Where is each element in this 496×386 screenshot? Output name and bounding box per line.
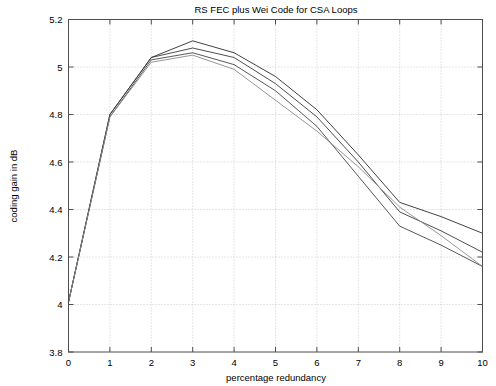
- y-tick-label: 4.2: [49, 252, 62, 263]
- y-tick-label: 4.4: [49, 204, 62, 215]
- x-tick-label: 10: [477, 357, 488, 368]
- y-tick-label: 3.8: [49, 347, 62, 358]
- x-tick-label: 6: [314, 357, 319, 368]
- y-axis-label: coding gain in dB: [8, 150, 19, 223]
- x-tick-label: 2: [149, 357, 154, 368]
- chart-title: RS FEC plus Wei Code for CSA Loops: [195, 4, 358, 15]
- figure-background: [0, 0, 496, 386]
- x-tick-label: 4: [231, 357, 236, 368]
- y-tick-label: 4: [57, 299, 62, 310]
- y-tick-label: 4.6: [49, 157, 62, 168]
- x-tick-label: 9: [438, 357, 443, 368]
- x-tick-label: 5: [273, 357, 278, 368]
- figure-container: RS FEC plus Wei Code for CSA Loops 01234…: [0, 0, 496, 386]
- x-tick-label: 8: [397, 357, 402, 368]
- line-chart: RS FEC plus Wei Code for CSA Loops 01234…: [0, 0, 496, 386]
- x-tick-label: 1: [107, 357, 112, 368]
- y-tick-label: 5: [57, 62, 62, 73]
- x-tick-label: 0: [66, 357, 71, 368]
- x-tick-label: 3: [190, 357, 195, 368]
- y-tick-label: 5.2: [49, 14, 62, 25]
- x-axis-label: percentage redundancy: [226, 372, 326, 383]
- y-tick-label: 4.8: [49, 109, 62, 120]
- x-tick-label: 7: [356, 357, 361, 368]
